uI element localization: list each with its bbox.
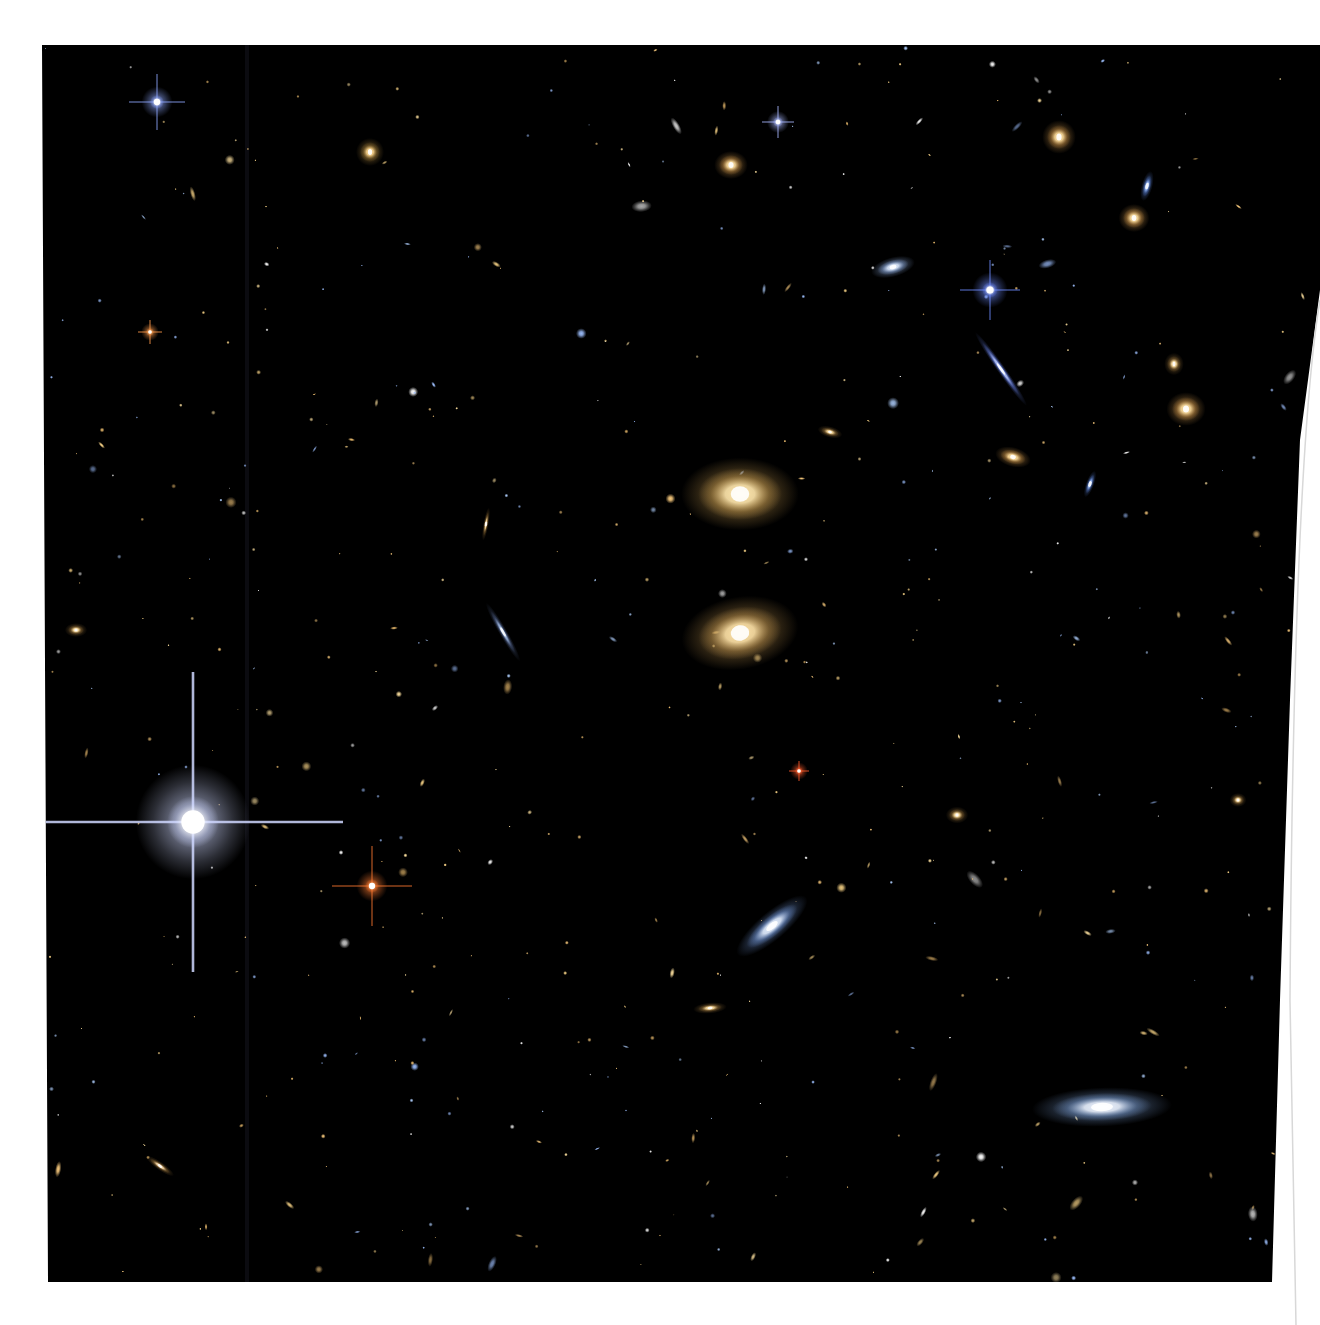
galaxy xyxy=(946,807,968,824)
galaxy xyxy=(65,623,87,637)
mosaic-seam xyxy=(245,45,249,1285)
galaxy xyxy=(1119,204,1150,232)
galaxy xyxy=(356,138,384,166)
galaxy xyxy=(1166,392,1205,426)
faint-galaxy xyxy=(616,1067,618,1069)
sky-background xyxy=(0,0,1320,1325)
deep-field-photo xyxy=(0,0,1320,1325)
faint-galaxy xyxy=(1250,974,1255,981)
galaxy xyxy=(714,151,748,179)
galaxy xyxy=(681,458,799,531)
galaxy xyxy=(1042,120,1076,154)
galaxy xyxy=(1164,353,1184,375)
galaxy xyxy=(1230,793,1247,807)
